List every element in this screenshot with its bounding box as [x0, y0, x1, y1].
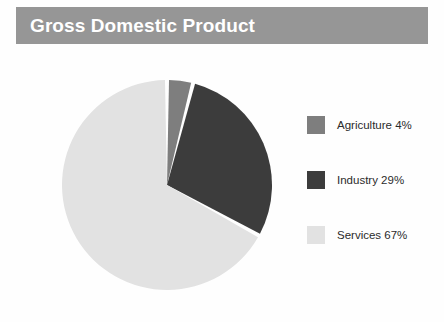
legend-swatch-services	[307, 226, 325, 244]
legend-item-industry[interactable]: Industry 29%	[307, 167, 442, 222]
page-title: Gross Domestic Product	[16, 15, 255, 37]
legend-label-services: Services 67%	[337, 226, 407, 244]
pie-chart	[50, 66, 290, 306]
pie-slice-group	[62, 80, 272, 290]
pie-chart-svg	[50, 66, 290, 306]
legend-label-agriculture: Agriculture 4%	[337, 116, 412, 134]
legend-label-industry: Industry 29%	[337, 171, 404, 189]
legend-item-services[interactable]: Services 67%	[307, 222, 442, 277]
legend-swatch-agriculture	[307, 116, 325, 134]
legend-item-agriculture[interactable]: Agriculture 4%	[307, 112, 442, 167]
title-banner: Gross Domestic Product	[16, 7, 428, 44]
legend-swatch-industry	[307, 171, 325, 189]
chart-page: Gross Domestic Product Agriculture 4% In…	[0, 0, 444, 322]
chart-legend: Agriculture 4% Industry 29% Services 67%	[307, 112, 442, 277]
